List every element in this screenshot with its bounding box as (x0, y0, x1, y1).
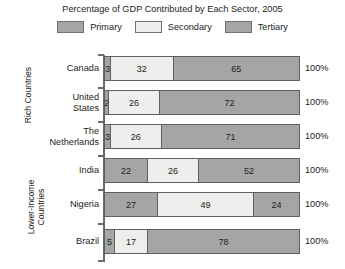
row-label: The Netherlands (20, 126, 99, 147)
row-total-label: 100% (305, 131, 329, 141)
axis-tick (98, 87, 104, 89)
bar-segment-tertiary: 72 (159, 90, 300, 115)
legend-swatch-primary-icon (57, 21, 84, 33)
segment-value: 17 (126, 237, 136, 247)
bar-row-brazil: Brazil 5 17 78 100% (0, 229, 345, 254)
segment-value: 72 (224, 98, 234, 108)
bar-segment-secondary: 32 (110, 56, 173, 81)
bar-row-canada: Canada 3 32 65 100% (0, 56, 345, 81)
bar-segment-tertiary: 71 (161, 124, 300, 149)
row-label: Canada (20, 63, 99, 74)
bar-segment-secondary: 17 (114, 229, 147, 254)
axis-tick (98, 121, 104, 123)
axis-tick (98, 189, 104, 191)
bar-segment-primary: 22 (104, 158, 147, 183)
stacked-bar: 2 26 72 (104, 90, 300, 115)
axis-tick (98, 223, 104, 225)
segment-value: 65 (231, 64, 241, 74)
row-label: Nigeria (20, 199, 99, 210)
row-label: India (20, 165, 99, 176)
bar-segment-tertiary: 24 (253, 192, 300, 217)
bar-segment-primary: 27 (104, 192, 157, 217)
segment-value: 24 (271, 200, 281, 210)
row-label: United States (20, 92, 99, 113)
segment-value: 26 (168, 166, 178, 176)
legend-item-primary: Primary (57, 21, 122, 33)
axis-tick (98, 260, 104, 262)
legend-item-secondary: Secondary (135, 21, 212, 33)
segment-value: 27 (126, 200, 136, 210)
segment-value: 49 (200, 200, 210, 210)
plot-area: Rich Countries Lower-Income Countries Ca… (0, 47, 345, 269)
stacked-bar: 3 32 65 (104, 56, 300, 81)
chart-legend: Primary Secondary Tertiary (0, 21, 345, 33)
row-total-label: 100% (305, 63, 329, 73)
row-total-label: 100% (305, 236, 329, 246)
segment-value: 26 (131, 132, 141, 142)
stacked-bar: 22 26 52 (104, 158, 300, 183)
segment-value: 71 (225, 132, 235, 142)
stacked-bar: 5 17 78 (104, 229, 300, 254)
legend-label-secondary: Secondary (168, 22, 212, 32)
axis-tick (98, 155, 104, 157)
row-total-label: 100% (305, 199, 329, 209)
stacked-bar-chart: Percentage of GDP Contributed by Each Se… (0, 0, 345, 269)
row-total-label: 100% (305, 97, 329, 107)
bar-row-india: India 22 26 52 100% (0, 158, 345, 183)
row-label: Brazil (20, 236, 99, 247)
legend-label-primary: Primary (90, 22, 122, 32)
bar-segment-tertiary: 78 (147, 229, 300, 254)
bar-segment-secondary: 49 (157, 192, 253, 217)
legend-label-tertiary: Tertiary (258, 22, 288, 32)
chart-title: Percentage of GDP Contributed by Each Se… (0, 4, 345, 14)
segment-value: 5 (107, 237, 112, 247)
bar-segment-tertiary: 52 (198, 158, 300, 183)
bar-row-nigeria: Nigeria 27 49 24 100% (0, 192, 345, 217)
stacked-bar: 3 26 71 (104, 124, 300, 149)
legend-item-tertiary: Tertiary (225, 21, 288, 33)
row-total-label: 100% (305, 165, 329, 175)
segment-value: 32 (137, 64, 147, 74)
bar-row-the-netherlands: The Netherlands 3 26 71 100% (0, 124, 345, 149)
segment-value: 52 (244, 166, 254, 176)
bar-segment-secondary: 26 (147, 158, 198, 183)
segment-value: 22 (121, 166, 131, 176)
segment-value: 78 (219, 237, 229, 247)
legend-swatch-secondary-icon (135, 21, 162, 33)
bar-segment-primary: 5 (104, 229, 114, 254)
bar-segment-tertiary: 65 (173, 56, 300, 81)
segment-value: 26 (129, 98, 139, 108)
legend-swatch-tertiary-icon (225, 21, 252, 33)
bar-row-united-states: United States 2 26 72 100% (0, 90, 345, 115)
bar-segment-secondary: 26 (108, 90, 159, 115)
stacked-bar: 27 49 24 (104, 192, 300, 217)
bar-segment-secondary: 26 (110, 124, 161, 149)
